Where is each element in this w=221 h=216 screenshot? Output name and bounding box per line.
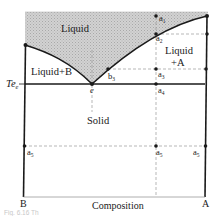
a5p-sub: 5: [31, 152, 34, 158]
label-a5-double-prime: a5: [193, 147, 200, 158]
point-a3-right: [204, 67, 208, 71]
a1-sub: 1: [163, 18, 166, 24]
figure-caption: Fig. 6.16 Th: [4, 209, 39, 216]
te-main: Te: [6, 78, 16, 89]
label-liquid: Liquid: [61, 23, 90, 34]
label-a5-prime: a5: [27, 147, 34, 158]
a5pp-sub: 5: [197, 152, 200, 158]
label-te: Tee: [6, 78, 19, 90]
point-a1: [154, 14, 158, 18]
point-a5-prime: [23, 144, 27, 148]
label-a2: a2: [156, 33, 163, 44]
phase-diagram: Liquid Liquid +A Liquid+B Solid Tee e b3…: [0, 0, 221, 216]
point-b-top: [24, 43, 28, 47]
a4-sub: 4: [162, 90, 165, 96]
label-solid: Solid: [87, 115, 110, 126]
point-a5-double-prime: [204, 144, 208, 148]
point-a-top: [205, 14, 209, 18]
a2-sub: 2: [160, 38, 163, 44]
te-sub: e: [16, 83, 19, 90]
label-liquid-a-line1: Liquid: [165, 45, 194, 56]
label-component-a: A: [202, 198, 210, 209]
label-a4: a4: [158, 85, 165, 96]
label-composition: Composition: [92, 200, 144, 211]
a5-sub: 5: [160, 152, 163, 158]
label-b3: b3: [108, 71, 115, 82]
point-a2-right: [205, 32, 209, 36]
a3-sub: 3: [162, 74, 165, 80]
label-e: e: [90, 85, 94, 95]
pure-b-boundary: [24, 45, 26, 197]
label-liquid-a-line2: +A: [171, 57, 185, 68]
label-liquid-b: Liquid+B: [31, 66, 72, 77]
b3-sub: 3: [112, 76, 115, 82]
pure-a-boundary: [205, 16, 207, 197]
label-a3: a3: [158, 69, 165, 80]
label-a5: a5: [156, 147, 163, 158]
label-component-b: B: [20, 198, 27, 209]
